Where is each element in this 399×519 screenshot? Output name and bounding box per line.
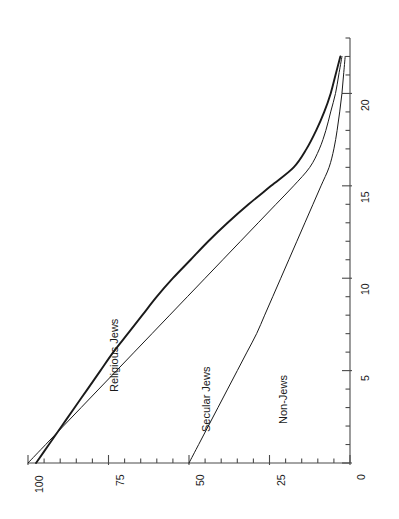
years-tick-label-15: 15 <box>359 191 371 203</box>
percent-tick-label-0: 0 <box>355 474 367 480</box>
percent-tick-label-100: 100 <box>33 475 45 493</box>
years-tick-label-5: 5 <box>359 375 371 381</box>
series-group <box>28 56 345 463</box>
chart-figure: 02550751005101520Religious JewsSecular J… <box>0 0 399 519</box>
religious-jews-label: Religious Jews <box>108 319 120 392</box>
percent-tick-label-25: 25 <box>275 475 287 487</box>
years-tick-label-10: 10 <box>359 284 371 296</box>
secular-jews-label: Secular Jews <box>200 367 212 432</box>
series-line-religious-jews <box>36 56 340 463</box>
years-tick-label-20: 20 <box>359 99 371 111</box>
non-jews-label: Non-Jews <box>277 375 289 424</box>
axes-group <box>28 38 352 465</box>
percent-tick-label-75: 75 <box>114 475 126 487</box>
chart-canvas <box>0 0 399 519</box>
series-line-secular-jews <box>28 56 342 463</box>
percent-tick-label-50: 50 <box>194 475 206 487</box>
